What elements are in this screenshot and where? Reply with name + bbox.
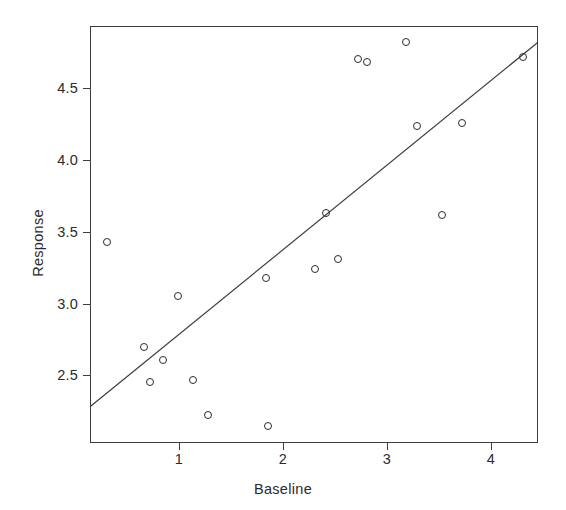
x-tick-mark [387, 443, 388, 450]
x-tick-mark [179, 443, 180, 450]
y-tick-mark [83, 375, 90, 376]
data-point [174, 292, 182, 300]
x-tick-label: 2 [279, 451, 287, 467]
data-point [311, 265, 319, 273]
data-point [140, 343, 148, 351]
data-point [322, 209, 330, 217]
data-point [519, 53, 527, 61]
y-tick-label: 4.5 [0, 80, 78, 96]
x-tick-label: 1 [175, 451, 183, 467]
data-point [146, 378, 154, 386]
x-tick-mark [491, 443, 492, 450]
data-point [413, 122, 421, 130]
y-tick-label: 4.0 [0, 152, 78, 168]
data-point [103, 238, 111, 246]
y-tick-label: 2.5 [0, 367, 78, 383]
data-point [363, 58, 371, 66]
y-tick-mark [83, 232, 90, 233]
data-point [189, 376, 197, 384]
data-point [159, 356, 167, 364]
data-point [262, 274, 270, 282]
y-axis-label: Response [30, 183, 46, 303]
x-tick-label: 4 [487, 451, 495, 467]
data-point [204, 411, 212, 419]
y-tick-mark [83, 160, 90, 161]
scatter-plot-figure: 1234 2.53.03.54.04.5 Baseline Response [0, 0, 566, 510]
x-tick-mark [283, 443, 284, 450]
plot-frame [90, 26, 538, 443]
data-point [458, 119, 466, 127]
data-point [354, 55, 362, 63]
y-tick-mark [83, 304, 90, 305]
data-point [438, 211, 446, 219]
data-point [402, 38, 410, 46]
data-point [334, 255, 342, 263]
x-axis-label: Baseline [0, 481, 566, 497]
x-tick-label: 3 [383, 451, 391, 467]
y-tick-mark [83, 88, 90, 89]
data-point [264, 422, 272, 430]
